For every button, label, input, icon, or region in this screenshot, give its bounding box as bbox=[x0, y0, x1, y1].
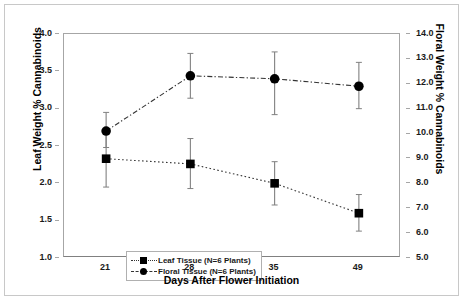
left-tick-mark bbox=[55, 182, 59, 183]
right-tick-label: 10.0 bbox=[416, 128, 434, 137]
right-tick-label: 8.0 bbox=[416, 178, 429, 187]
right-tick-mark bbox=[406, 257, 410, 258]
right-tick-mark bbox=[406, 232, 410, 233]
right-tick-mark bbox=[406, 58, 410, 59]
data-point-marker bbox=[102, 154, 111, 163]
data-point-marker bbox=[355, 209, 364, 218]
right-tick-label: 14.0 bbox=[416, 29, 434, 38]
series-floral bbox=[101, 52, 363, 148]
y-axis-label-right: Floral Weight % Cannabinoids bbox=[434, 19, 446, 179]
left-tick-mark bbox=[55, 220, 59, 221]
right-tick-label: 12.0 bbox=[416, 78, 434, 87]
left-tick-mark bbox=[55, 257, 59, 258]
right-tick-mark bbox=[406, 157, 410, 158]
right-tick-mark bbox=[406, 133, 410, 134]
right-tick-label: 9.0 bbox=[416, 153, 429, 162]
right-tick-mark bbox=[406, 182, 410, 183]
data-point-marker bbox=[270, 74, 280, 84]
right-tick-mark bbox=[406, 207, 410, 208]
y-axis-label-left: Leaf Weight % Cannabinoids bbox=[31, 19, 43, 179]
right-tick-label: 5.0 bbox=[416, 253, 429, 262]
series-leaf bbox=[102, 130, 363, 232]
right-tick-mark bbox=[406, 83, 410, 84]
figure-frame: 1.01.52.02.53.03.54.0 5.06.07.08.09.010.… bbox=[4, 4, 459, 296]
x-axis-ticks: 21283549 bbox=[63, 261, 400, 275]
right-tick-label: 7.0 bbox=[416, 203, 429, 212]
x-tick-label: 21 bbox=[100, 262, 110, 272]
right-tick-label: 6.0 bbox=[416, 228, 429, 237]
right-tick-mark bbox=[406, 108, 410, 109]
figure-container: 1.01.52.02.53.03.54.0 5.06.07.08.09.010.… bbox=[0, 0, 463, 300]
right-tick-label: 13.0 bbox=[416, 53, 434, 62]
plot-area: Leaf Tissue (N=6 Plants)Floral Tissue (N… bbox=[63, 33, 400, 257]
left-tick-mark bbox=[55, 108, 59, 109]
x-tick-label: 28 bbox=[184, 262, 194, 272]
data-point-marker bbox=[101, 126, 111, 136]
data-point-marker bbox=[354, 81, 364, 91]
series-line bbox=[106, 76, 359, 131]
left-tick-mark bbox=[55, 70, 59, 71]
data-point-marker bbox=[186, 160, 195, 169]
data-point-marker bbox=[270, 179, 279, 188]
x-tick-label: 35 bbox=[269, 262, 279, 272]
left-tick-label: 1.5 bbox=[39, 215, 52, 224]
data-point-marker bbox=[186, 71, 196, 81]
left-tick-mark bbox=[55, 145, 59, 146]
x-axis-label: Days After Flower Initiation bbox=[63, 274, 400, 286]
right-tick-label: 11.0 bbox=[416, 103, 433, 112]
series-line bbox=[106, 159, 359, 214]
left-tick-label: 1.0 bbox=[39, 253, 52, 262]
x-tick-label: 49 bbox=[353, 262, 363, 272]
left-tick-mark bbox=[55, 33, 59, 34]
right-tick-mark bbox=[406, 33, 410, 34]
left-tick-label: 2.0 bbox=[39, 178, 52, 187]
data-series-layer bbox=[64, 34, 401, 258]
